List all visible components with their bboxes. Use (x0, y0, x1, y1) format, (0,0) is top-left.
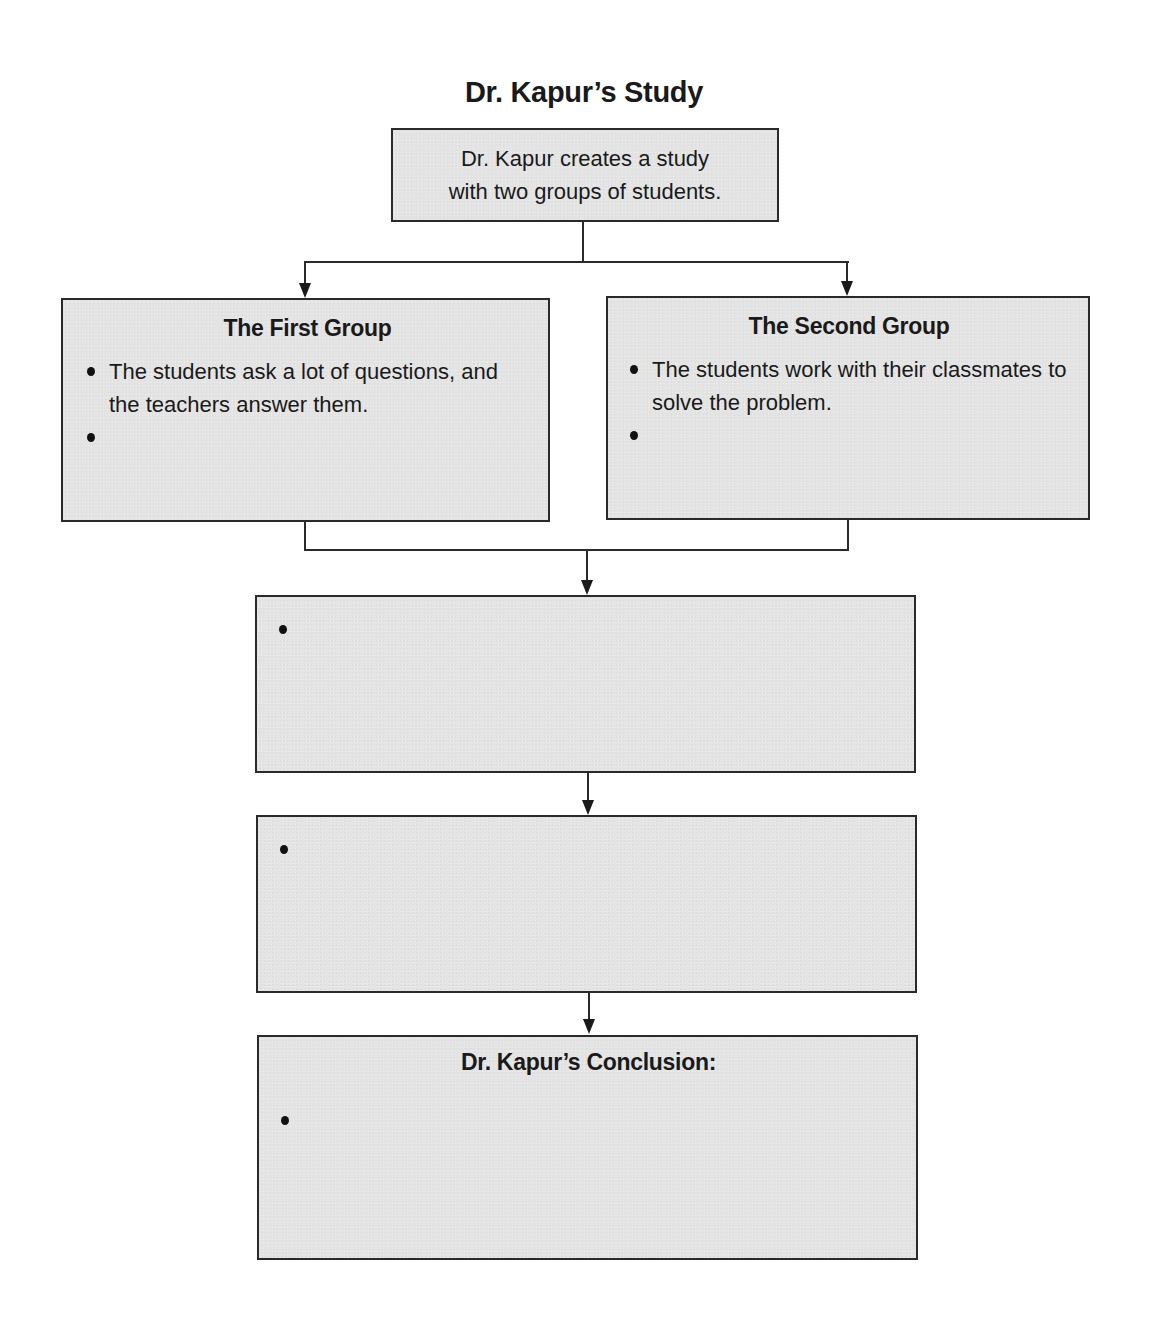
arrow-down-icon (581, 580, 593, 595)
arrow-down-icon (583, 1019, 595, 1034)
second-group-bullet-1: The students work with their classmates … (630, 353, 1068, 419)
conclusion-bullets (281, 1104, 896, 1137)
start-box-line-2: with two groups of students. (393, 175, 777, 208)
second-group-heading: The Second Group (630, 311, 1068, 341)
start-box-line-1: Dr. Kapur creates a study (393, 142, 777, 175)
conclusion-bullet-1[interactable] (281, 1104, 896, 1137)
bullet-icon (87, 367, 95, 376)
step-three-box (255, 595, 916, 773)
connector-start-vertical (582, 221, 584, 263)
arrow-down-icon (841, 281, 853, 296)
connector-merge-drop (586, 550, 588, 582)
first-group-box: The First Group The students ask a lot o… (61, 298, 550, 522)
start-box: Dr. Kapur creates a study with two group… (391, 128, 779, 222)
bullet-text: The students work with their classmates … (652, 357, 1067, 415)
connector-right-rise (847, 519, 849, 551)
bullet-icon (630, 431, 638, 440)
arrow-down-icon (582, 800, 594, 815)
bullet-icon (279, 625, 287, 634)
bullet-text: The students ask a lot of questions, and… (109, 359, 498, 417)
first-group-heading: The First Group (87, 313, 528, 343)
step-four-box (256, 815, 917, 993)
connector-step-three-drop (587, 772, 589, 802)
bullet-icon (281, 1116, 289, 1125)
step-three-bullets (279, 613, 894, 646)
bullet-icon (280, 845, 288, 854)
connector-left-rise (304, 521, 306, 551)
first-group-bullet-2[interactable] (87, 421, 528, 454)
step-four-bullets (280, 833, 895, 866)
connector-step-four-drop (588, 992, 590, 1021)
second-group-bullets: The students work with their classmates … (630, 353, 1068, 452)
arrow-down-icon (299, 283, 311, 298)
bullet-icon (630, 365, 638, 374)
step-three-bullet-1[interactable] (279, 613, 894, 646)
bullet-icon (87, 433, 95, 442)
step-four-bullet-1[interactable] (280, 833, 895, 866)
diagram-title: Dr. Kapur’s Study (0, 76, 1157, 109)
first-group-bullets: The students ask a lot of questions, and… (87, 355, 528, 454)
first-group-bullet-1: The students ask a lot of questions, and… (87, 355, 528, 421)
connector-split-horizontal (304, 261, 849, 263)
conclusion-heading: Dr. Kapur’s Conclusion: (281, 1047, 896, 1077)
second-group-box: The Second Group The students work with … (606, 296, 1090, 520)
connector-left-drop (304, 261, 306, 285)
connector-merge-horizontal (304, 549, 849, 551)
connector-right-drop (846, 261, 848, 283)
conclusion-box: Dr. Kapur’s Conclusion: (257, 1035, 918, 1260)
second-group-bullet-2[interactable] (630, 419, 1068, 452)
